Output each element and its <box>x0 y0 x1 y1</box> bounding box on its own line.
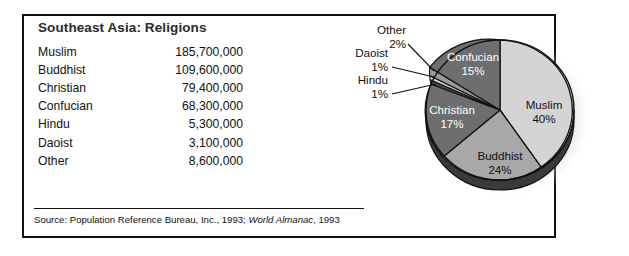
table-row: Muslim 185,700,000 <box>38 43 243 61</box>
leader-line-daoist <box>392 67 434 77</box>
religion-population-table: Muslim 185,700,000 Buddhist 109,600,000 … <box>38 43 243 170</box>
callout-label-other: Other <box>377 23 406 36</box>
slice-label-confucian: Confucian <box>447 50 499 63</box>
source-publication: World Almanac <box>248 214 313 225</box>
slice-value-christian: 17% <box>440 117 463 130</box>
religion-name: Hindu <box>38 116 130 134</box>
religion-name: Muslim <box>38 43 130 61</box>
source-note: Source: Population Reference Bureau, Inc… <box>34 214 340 225</box>
pie-outside-labels: Other 2% Daoist 1% Hindu 1% <box>355 23 406 100</box>
slice-value-muslim: 40% <box>532 112 555 125</box>
callout-value-other: 2% <box>389 37 406 50</box>
religion-name: Buddhist <box>38 61 130 79</box>
religion-name: Christian <box>38 79 130 97</box>
source-divider <box>34 208 364 209</box>
callout-value-hindu: 1% <box>371 87 388 100</box>
table-row: Hindu 5,300,000 <box>38 116 243 134</box>
religion-value: 79,400,000 <box>130 79 243 97</box>
table-row: Daoist 3,100,000 <box>38 134 243 152</box>
religion-name: Daoist <box>38 134 130 152</box>
callout-value-daoist: 1% <box>371 60 388 73</box>
slice-value-confucian: 15% <box>461 64 484 77</box>
chart-figure: Southeast Asia: Religions Muslim 185,700… <box>0 0 629 256</box>
slice-value-buddhist: 24% <box>488 163 511 176</box>
slice-label-muslim: Muslim <box>526 98 563 111</box>
religion-name: Other <box>38 152 130 170</box>
religion-value: 109,600,000 <box>130 61 243 79</box>
page-title: Southeast Asia: Religions <box>38 20 253 35</box>
callout-label-hindu: Hindu <box>358 73 388 86</box>
table-row: Confucian 68,300,000 <box>38 98 243 116</box>
pie-chart: Muslim 40% Buddhist 24% Christian 17% Co… <box>330 10 629 230</box>
source-prefix: Source: Population Reference Bureau, Inc… <box>34 214 248 225</box>
leader-line-other <box>408 44 434 71</box>
table-row: Buddhist 109,600,000 <box>38 61 243 79</box>
religion-value: 8,600,000 <box>130 152 243 170</box>
religion-value: 185,700,000 <box>130 43 243 61</box>
table-row: Christian 79,400,000 <box>38 79 243 97</box>
slice-label-buddhist: Buddhist <box>477 149 523 162</box>
religion-value: 68,300,000 <box>130 98 243 116</box>
religion-value: 5,300,000 <box>130 116 243 134</box>
table-body: Muslim 185,700,000 Buddhist 109,600,000 … <box>38 43 243 170</box>
data-panel: Southeast Asia: Religions Muslim 185,700… <box>38 20 253 170</box>
religion-value: 3,100,000 <box>130 134 243 152</box>
religion-name: Confucian <box>38 98 130 116</box>
callout-label-daoist: Daoist <box>355 46 389 59</box>
slice-label-christian: Christian <box>429 103 475 116</box>
table-row: Other 8,600,000 <box>38 152 243 170</box>
